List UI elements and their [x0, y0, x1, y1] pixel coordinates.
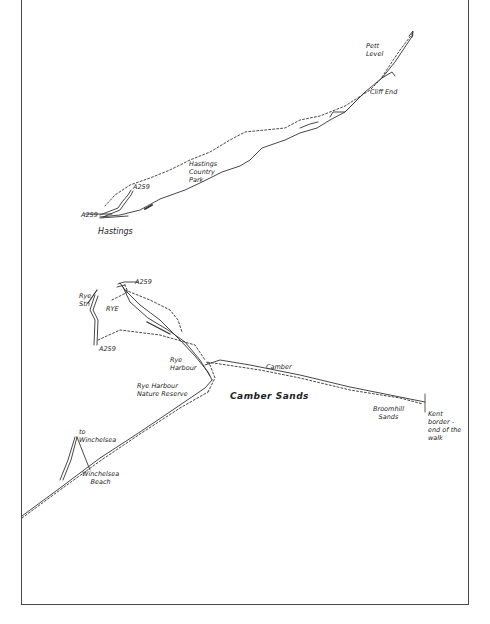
label-a259-hastings-north: A259 [133, 183, 150, 191]
label-rye-stn: RyeStn [79, 292, 91, 308]
label-rye-harbour: RyeHarbour [170, 356, 196, 372]
label-rye-harbour-nature-reserve: Rye HarbourNature Reserve [137, 382, 188, 398]
label-pett-level: PettLevel [366, 42, 383, 58]
label-winchelsea-beach: WinchelseaBeach [82, 470, 119, 486]
label-hastings: Hastings [98, 228, 133, 236]
route-map-drawing [0, 0, 490, 624]
label-kent-border-end-of-walk: Kentborder -end of thewalk [428, 410, 461, 442]
label-a259-rye-north: A259 [135, 278, 152, 286]
upper-walk-route-dotted [105, 33, 413, 206]
label-to-winchelsea: toWinchelsea [79, 428, 116, 444]
label-camber: Camber [266, 363, 292, 371]
label-hastings-country-park: HastingsCountryPark [189, 160, 217, 184]
label-cliff-end: Cliff End [370, 88, 397, 96]
label-a259-hastings-west: A259 [81, 211, 98, 219]
label-broomhill-sands: BroomhillSands [373, 405, 404, 421]
label-rye: RYE [106, 305, 119, 313]
label-a259-rye-south: A259 [99, 345, 116, 353]
label-camber-sands: Camber Sands [230, 392, 309, 400]
